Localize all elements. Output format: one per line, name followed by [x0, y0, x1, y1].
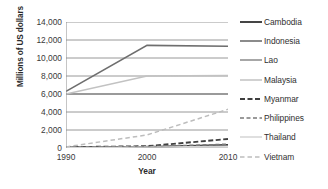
plot-svg: [66, 22, 228, 148]
legend-label: Malaysia: [262, 75, 297, 85]
legend-line-icon: [240, 152, 262, 162]
x-axis-tick-label: 1990: [57, 152, 76, 162]
legend-line-icon: [240, 55, 262, 65]
legend-label: Indonesia: [262, 36, 300, 46]
y-axis-tick-label: 6,000: [22, 89, 62, 99]
legend-line-icon: [240, 75, 262, 85]
series-line: [66, 45, 228, 91]
chart-legend: CambodiaIndonesiaLaoMalaysiaMyanmarPhili…: [240, 12, 328, 166]
x-axis-title: Year: [66, 166, 228, 176]
y-axis-tick-label: 2,000: [22, 125, 62, 135]
y-axis-tick-label: 12,000: [22, 35, 62, 45]
legend-line-icon: [240, 94, 262, 104]
gridlines: [66, 22, 228, 148]
legend-item[interactable]: Indonesia: [240, 31, 328, 50]
chart-container: Millions of US dollars 02,0004,0006,0008…: [0, 0, 328, 189]
legend-item[interactable]: Thailand: [240, 128, 328, 147]
legend-label: Lao: [262, 55, 278, 65]
x-axis-tick-label: 2000: [138, 152, 157, 162]
legend-label: Myanmar: [262, 94, 299, 104]
plot-area: [66, 22, 228, 148]
legend-item[interactable]: Lao: [240, 51, 328, 70]
legend-label: Thailand: [262, 132, 296, 142]
legend-item[interactable]: Myanmar: [240, 89, 328, 108]
y-axis-tick-label: 8,000: [22, 71, 62, 81]
series-lines: [66, 45, 228, 147]
legend-item[interactable]: Vietnam: [240, 147, 328, 166]
legend-label: Cambodia: [262, 17, 302, 27]
y-axis-tick-label: 14,000: [22, 17, 62, 27]
y-axis-tick-label: 4,000: [22, 107, 62, 117]
x-axis-tick-label: 2010: [219, 152, 238, 162]
legend-line-icon: [240, 113, 262, 123]
legend-line-icon: [240, 36, 262, 46]
legend-item[interactable]: Cambodia: [240, 12, 328, 31]
legend-item[interactable]: Malaysia: [240, 70, 328, 89]
legend-label: Vietnam: [262, 152, 294, 162]
y-axis-tick-label: 0: [22, 143, 62, 153]
legend-label: Philippines: [262, 113, 304, 123]
legend-item[interactable]: Philippines: [240, 108, 328, 127]
y-axis-tick-label: 10,000: [22, 53, 62, 63]
legend-line-icon: [240, 17, 262, 27]
legend-line-icon: [240, 132, 262, 142]
